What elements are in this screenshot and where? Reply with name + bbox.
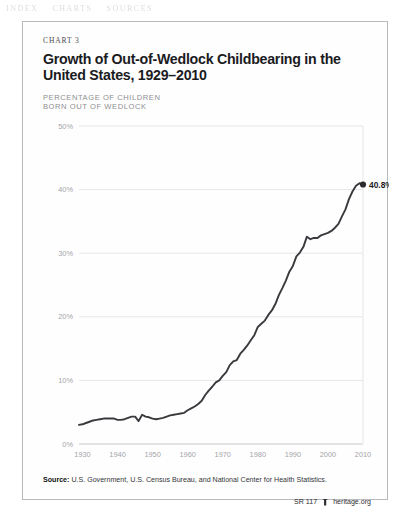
gridlines-group [79, 126, 363, 444]
y-axis-caption: PERCENTAGE OF CHILDREN BORN OUT OF WEDLO… [43, 93, 373, 112]
scanner-bleedthrough-text: INDEX CHARTS SOURCES [0, 0, 411, 16]
report-id-label: SR 117 [294, 498, 317, 506]
endpoint-marker [360, 181, 366, 187]
x-tick-label-1940: 1940 [109, 450, 125, 459]
y-axis-caption-line-2: BORN OUT OF WEDLOCK [43, 102, 373, 112]
imprint-row: SR 117 heritage.org [294, 498, 371, 506]
x-tick-label-1930: 1930 [74, 450, 90, 459]
x-tick-label-1980: 1980 [250, 450, 266, 459]
bleedthrough-word-3: SOURCES [106, 4, 153, 13]
x-tick-label-2010: 2010 [355, 450, 371, 459]
chart-card-frame: CHART 3 Growth of Out-of-Wedlock Childbe… [22, 21, 388, 500]
x-tick-label-1950: 1950 [144, 450, 160, 459]
source-label: Source: [43, 476, 69, 484]
x-tick-label-1990: 1990 [285, 450, 301, 459]
x-tick-label-1970: 1970 [215, 450, 231, 459]
source-note: Source: U.S. Government, U.S. Census Bur… [43, 476, 371, 485]
chart-number-label: CHART 3 [43, 36, 373, 45]
y-tick-labels-group: 0%10%20%30%40%50% [58, 122, 73, 449]
line-chart-svg: 0%10%20%30%40%50% 1930194019501960197019… [45, 118, 389, 470]
bleedthrough-word-1: INDEX [6, 4, 38, 13]
y-tick-label-10: 10% [58, 376, 73, 385]
x-tick-label-1960: 1960 [179, 450, 195, 459]
data-line-out-of-wedlock [79, 183, 363, 425]
bleedthrough-word-2: CHARTS [52, 4, 92, 13]
y-axis-caption-block: PERCENTAGE OF CHILDREN BORN OUT OF WEDLO… [43, 93, 373, 112]
y-tick-label-0: 0% [62, 440, 73, 449]
heritage-shield-icon [322, 499, 328, 506]
chart-header: CHART 3 Growth of Out-of-Wedlock Childbe… [43, 36, 373, 114]
y-tick-label-50: 50% [58, 122, 73, 131]
y-tick-label-40: 40% [58, 185, 73, 194]
x-tick-labels-group: 193019401950196019701980199020002010 [74, 450, 371, 459]
x-tick-label-2000: 2000 [320, 450, 336, 459]
source-text: U.S. Government, U.S. Census Bureau, and… [69, 476, 326, 484]
endpoint-value-label: 40.8% [369, 180, 389, 190]
y-tick-label-20: 20% [58, 312, 73, 321]
chart-title: Growth of Out-of-Wedlock Childbearing in… [43, 51, 343, 84]
heritage-site-label[interactable]: heritage.org [333, 498, 371, 506]
chart-plot-area: 0%10%20%30%40%50% 1930194019501960197019… [45, 118, 389, 470]
y-axis-caption-line-1: PERCENTAGE OF CHILDREN [43, 93, 373, 103]
y-tick-label-30: 30% [58, 249, 73, 258]
